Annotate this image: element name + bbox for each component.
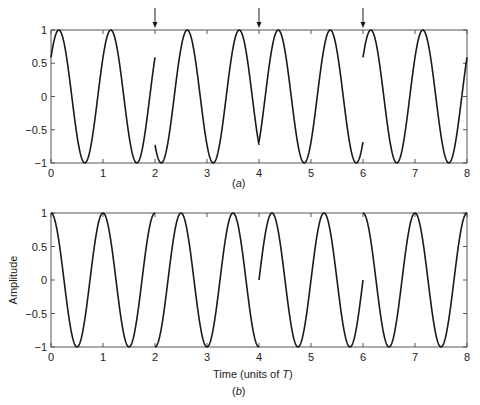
caption-a: (a) [232, 177, 245, 189]
x-tick-label: 1 [100, 351, 106, 363]
x-tick-label: 5 [308, 167, 314, 179]
y-tick-label: −0.5 [25, 124, 47, 136]
y-tick-label: 0.5 [32, 241, 47, 253]
x-tick-label: 0 [48, 167, 54, 179]
signal-curve [363, 213, 467, 347]
y-tick-label: −0.5 [25, 308, 47, 320]
figure: 01234567810.50−0.5−1 01234567810.50−0.5−… [0, 0, 480, 405]
x-tick-label: 3 [204, 351, 210, 363]
plot-b: 01234567810.50−0.5−1 [25, 207, 470, 363]
x-tick-label: 6 [360, 351, 366, 363]
x-tick-label: 7 [412, 351, 418, 363]
x-tick-label: 6 [360, 167, 366, 179]
signal-curve [51, 213, 155, 347]
x-tick-label: 7 [412, 167, 418, 179]
caption-b: (b) [232, 385, 245, 397]
x-tick-label: 3 [204, 167, 210, 179]
y-tick-label: 0 [41, 91, 47, 103]
x-tick-label: 2 [152, 351, 158, 363]
x-tick-label: 5 [308, 351, 314, 363]
x-tick-label: 8 [464, 351, 470, 363]
plot-a: 01234567810.50−0.5−1 [25, 8, 470, 179]
y-tick-label: 0 [41, 274, 47, 286]
arrowhead-icon [257, 22, 262, 28]
signal-curve [155, 30, 259, 163]
signal-curve [155, 213, 259, 347]
signal-curve [259, 30, 363, 163]
signal-curve [259, 213, 363, 347]
x-tick-label: 8 [464, 167, 470, 179]
y-tick-label: 1 [41, 207, 47, 219]
y-tick-label: −1 [34, 341, 47, 353]
x-tick-label: 0 [48, 351, 54, 363]
signal-curve [363, 30, 467, 163]
x-tick-label: 4 [256, 351, 262, 363]
x-axis-label-b: Time (units of T) [213, 368, 293, 380]
arrowhead-icon [361, 22, 366, 28]
y-axis-label-b: Amplitude [7, 256, 19, 305]
y-tick-label: −1 [34, 157, 47, 169]
x-tick-label: 4 [256, 167, 262, 179]
signal-curve [51, 30, 155, 163]
x-tick-label: 2 [152, 167, 158, 179]
y-tick-label: 0.5 [32, 57, 47, 69]
arrowhead-icon [153, 22, 158, 28]
x-tick-label: 1 [100, 167, 106, 179]
y-tick-label: 1 [41, 24, 47, 36]
